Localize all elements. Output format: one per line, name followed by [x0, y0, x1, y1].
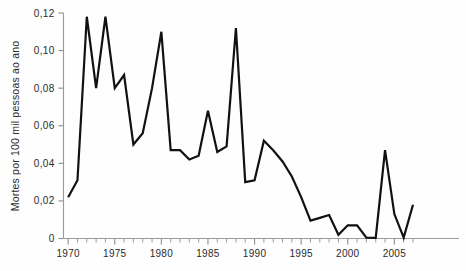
data-series-line	[68, 17, 413, 238]
y-tick-label: 0,06	[34, 120, 55, 131]
y-tick-label: 0	[49, 233, 55, 244]
x-tick-label: 1985	[196, 248, 220, 259]
y-axis-ticks: 00,020,040,060,080,100,12	[34, 8, 64, 245]
x-axis-ticks: 19701975198019851990199520002005	[56, 239, 406, 259]
x-tick-label: 2000	[336, 248, 360, 259]
x-tick-label: 2005	[383, 248, 407, 259]
y-tick-label: 0,04	[34, 158, 55, 169]
x-tick-label: 1980	[150, 248, 174, 259]
x-tick-label: 1970	[56, 248, 80, 259]
line-chart: Mortes por 100 mil pessoas ao ano 00,020…	[0, 0, 466, 271]
x-tick-label: 1975	[103, 248, 127, 259]
x-axis-minor-ticks	[77, 239, 413, 243]
y-tick-label: 0,12	[34, 8, 55, 19]
y-tick-label: 0,08	[34, 83, 55, 94]
y-axis-title-group: Mortes por 100 mil pessoas ao ano	[9, 41, 21, 212]
chart-figure: Mortes por 100 mil pessoas ao ano 00,020…	[0, 0, 466, 271]
y-tick-label: 0,10	[34, 45, 55, 56]
x-tick-label: 1990	[243, 248, 267, 259]
y-axis-title: Mortes por 100 mil pessoas ao ano	[9, 41, 21, 212]
y-tick-label: 0,02	[34, 195, 55, 206]
x-tick-label: 1995	[289, 248, 313, 259]
